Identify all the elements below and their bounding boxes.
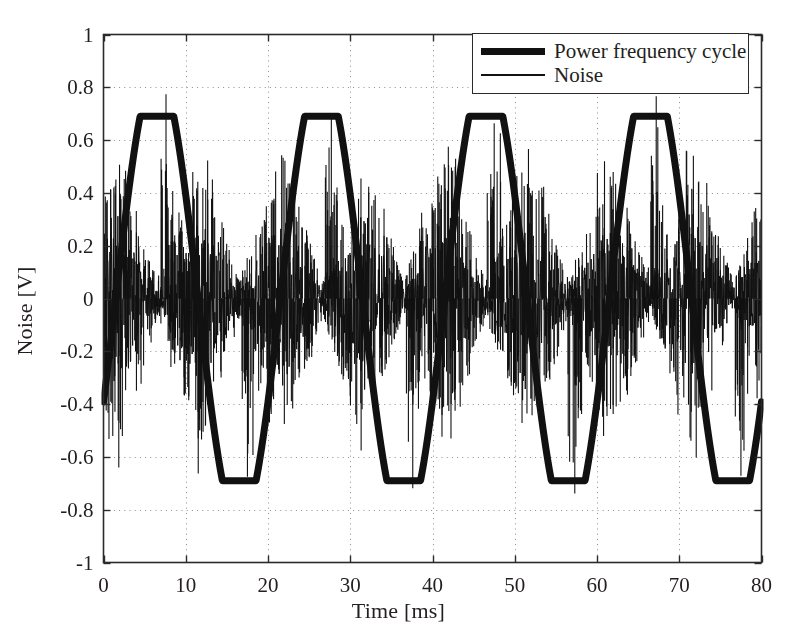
x-tick-label: 70 — [669, 575, 690, 596]
legend-label-noise: Noise — [554, 65, 603, 86]
legend-line-sample-thick-icon — [481, 44, 545, 58]
y-tick-label: -0.4 — [22, 394, 94, 415]
y-tick-label: -0.8 — [22, 499, 94, 520]
x-tick-label: 80 — [751, 575, 772, 596]
y-tick-label: 0.6 — [22, 130, 94, 151]
y-tick-label: 0.8 — [22, 77, 94, 98]
y-tick-label: 0.4 — [22, 182, 94, 203]
y-axis-title: Noise [V] — [12, 231, 38, 391]
legend-entry-noise: Noise — [481, 63, 740, 87]
chart-legend: Power frequency cycle Noise — [472, 33, 749, 94]
legend-entry-power-frequency-cycle: Power frequency cycle — [481, 39, 740, 63]
x-tick-label: 20 — [258, 575, 279, 596]
x-tick-label: 60 — [587, 575, 608, 596]
x-tick-label: 30 — [340, 575, 361, 596]
chart-figure: 10.80.60.40.20-0.2-0.4-0.6-0.8-1 0102030… — [0, 0, 797, 643]
legend-line-sample-thin-icon — [481, 68, 545, 82]
x-tick-label: 40 — [422, 575, 443, 596]
x-tick-label: 0 — [98, 575, 109, 596]
y-tick-label: -1 — [22, 552, 94, 573]
y-tick-label: 1 — [22, 24, 94, 45]
x-axis-title: Time [ms] — [0, 598, 797, 624]
x-tick-label: 10 — [175, 575, 196, 596]
y-tick-label: -0.6 — [22, 446, 94, 467]
legend-label-power-frequency-cycle: Power frequency cycle — [554, 41, 746, 62]
noise-vs-time-plot-canvas — [0, 0, 797, 643]
x-tick-label: 50 — [504, 575, 525, 596]
